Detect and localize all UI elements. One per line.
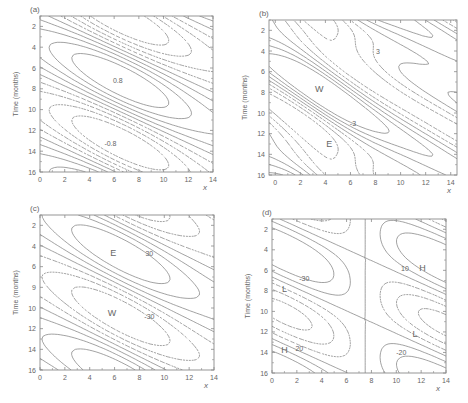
y-axis-label: Time (months) xyxy=(12,72,20,117)
x-tick-label: 10 xyxy=(392,377,400,384)
x-tick-label: 6 xyxy=(112,176,116,183)
y-tick-label: 2 xyxy=(264,226,268,233)
contour-level xyxy=(72,225,170,370)
contour-annotation: -30 xyxy=(299,275,309,282)
y-tick-label: 6 xyxy=(264,267,268,274)
x-tick-label: 12 xyxy=(185,374,193,381)
x-tick-label: 6 xyxy=(113,374,117,381)
y-tick-label: 8 xyxy=(32,85,36,92)
contour-annotation: W xyxy=(315,84,324,94)
x-tick-label: 6 xyxy=(345,377,349,384)
contour-annotation: 30 xyxy=(145,250,153,257)
contour-annotation: E xyxy=(326,139,332,149)
x-tick-label: 10 xyxy=(397,179,405,186)
y-tick-label: 10 xyxy=(257,110,265,117)
y-tick-label: 16 xyxy=(257,172,265,179)
x-tick-label: 12 xyxy=(417,377,425,384)
contour-annotation: H xyxy=(419,263,426,273)
contour-annotation: H xyxy=(281,345,288,355)
x-tick-label: 14 xyxy=(210,374,218,381)
panel-label: (c) xyxy=(30,204,40,213)
y-tick-label: 6 xyxy=(32,65,36,72)
y-axis-label: Time (months) xyxy=(244,274,252,319)
contour-lines xyxy=(269,20,457,175)
y-tick-label: 12 xyxy=(28,127,36,134)
y-tick-label: 4 xyxy=(264,246,268,253)
x-axis-label: x xyxy=(202,183,208,192)
axes-frame xyxy=(269,20,457,175)
x-axis-label: x xyxy=(203,381,209,390)
y-tick-label: 6 xyxy=(32,263,36,270)
y-tick-label: 12 xyxy=(28,325,36,332)
contour-level xyxy=(40,215,214,370)
panel-a: (a) 02468101214246810121416xTime (months… xyxy=(12,5,217,192)
y-tick-label: 10 xyxy=(260,308,268,315)
y-tick-label: 16 xyxy=(28,367,36,374)
contour-level xyxy=(269,20,457,175)
y-tick-label: 6 xyxy=(261,68,265,75)
y-tick-label: 14 xyxy=(28,346,36,353)
contour-annotation: E xyxy=(110,248,116,258)
x-tick-label: 10 xyxy=(160,374,168,381)
y-tick-label: 16 xyxy=(260,370,268,377)
contour-level xyxy=(269,20,457,175)
contour-level xyxy=(269,20,457,175)
x-tick-label: 0 xyxy=(38,176,42,183)
contour-annotation: 20 xyxy=(295,345,303,352)
contour-level xyxy=(272,219,446,344)
y-tick-label: 14 xyxy=(260,349,268,356)
contour-level xyxy=(40,215,214,370)
x-tick-label: 14 xyxy=(209,176,217,183)
contour-level xyxy=(269,20,457,175)
contour-level xyxy=(40,29,213,172)
panel-b: (b) 02468101214246810121416xTime (months… xyxy=(241,9,457,195)
y-tick-label: 12 xyxy=(260,328,268,335)
contour-lines xyxy=(40,16,213,172)
contour-annotation: -3 xyxy=(350,120,356,127)
x-tick-label: 0 xyxy=(270,377,274,384)
panel-d: (d) 02468101214246810121416xTime (months… xyxy=(244,208,450,393)
x-tick-label: 14 xyxy=(447,179,455,186)
contour-annotation: -30 xyxy=(144,313,154,320)
y-tick-label: 4 xyxy=(261,48,265,55)
y-tick-label: 4 xyxy=(32,44,36,51)
y-tick-label: 14 xyxy=(28,148,36,155)
x-tick-label: 4 xyxy=(87,176,91,183)
x-tick-label: 4 xyxy=(323,179,327,186)
x-tick-label: 0 xyxy=(38,374,42,381)
y-tick-label: 4 xyxy=(32,243,36,250)
contour-annotation: -0.8 xyxy=(104,140,116,147)
figure-canvas: (a) 02468101214246810121416xTime (months… xyxy=(0,0,468,403)
axes-frame xyxy=(40,215,214,370)
contour-annotation: -20 xyxy=(396,349,406,356)
y-tick-label: 8 xyxy=(261,89,265,96)
contour-level xyxy=(72,16,169,170)
contour-annotation: 0.8 xyxy=(113,77,123,84)
y-tick-label: 2 xyxy=(261,27,265,34)
x-tick-label: 6 xyxy=(349,179,353,186)
y-tick-label: 8 xyxy=(264,287,268,294)
contour-level xyxy=(42,215,200,360)
panel-label: (b) xyxy=(259,9,269,18)
panel-c: (c) 02468101214246910121416xTime (months… xyxy=(12,204,218,390)
contour-annotation: 3 xyxy=(376,48,380,55)
x-tick-label: 12 xyxy=(184,176,192,183)
y-tick-label: 10 xyxy=(28,305,36,312)
y-axis-label: Time (months) xyxy=(241,75,249,120)
contour-annotation: L xyxy=(282,284,287,294)
x-axis-label: x xyxy=(446,186,452,195)
x-tick-label: 8 xyxy=(137,176,141,183)
x-tick-label: 4 xyxy=(88,374,92,381)
y-axis-label: Time (months) xyxy=(12,270,20,315)
x-tick-label: 10 xyxy=(160,176,168,183)
y-tick-label: 9 xyxy=(32,284,36,291)
x-tick-label: 8 xyxy=(369,377,373,384)
contour-lines xyxy=(40,215,214,370)
x-axis-label: x xyxy=(435,384,441,393)
contour-annotation: W xyxy=(108,308,117,318)
panel-label: (a) xyxy=(30,5,40,14)
x-tick-label: 2 xyxy=(298,179,302,186)
y-tick-label: 2 xyxy=(32,222,36,229)
x-tick-label: 12 xyxy=(422,179,430,186)
y-tick-label: 14 xyxy=(257,151,265,158)
